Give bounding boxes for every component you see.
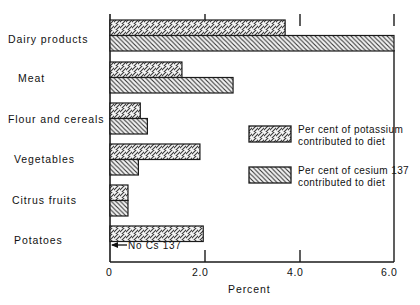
bar-potassium-potatoes — [110, 226, 203, 242]
bar-potassium-meat — [110, 62, 182, 78]
bar-potassium-dairy-products — [110, 20, 285, 36]
bar-cesium-137-flour-and-cereals — [110, 119, 147, 135]
plot-area — [0, 0, 420, 305]
bar-potassium-citrus-fruits — [110, 185, 128, 201]
bar-cesium-137-dairy-products — [110, 36, 394, 52]
bar-potassium-flour-and-cereals — [110, 103, 140, 119]
no-cs137-arrow-icon — [111, 242, 127, 248]
bar-cesium-137-meat — [110, 78, 233, 94]
bar-cesium-137-citrus-fruits — [110, 201, 128, 217]
bar-chart-figure: Dairy products Meat Flour and cereals Ve… — [0, 0, 420, 305]
legend-swatch-cesium — [249, 167, 291, 183]
legend-swatch-potassium — [249, 126, 291, 142]
bar-potassium-vegetables — [110, 144, 200, 160]
bar-cesium-137-vegetables — [110, 160, 138, 176]
